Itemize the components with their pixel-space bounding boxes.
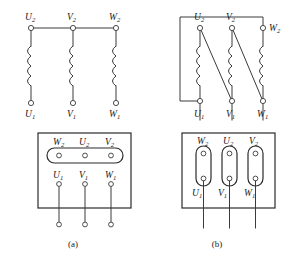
terminal-u1-a[interactable] (28, 100, 33, 105)
coil-u-b (197, 46, 201, 86)
label-u2-a: U2 (25, 12, 36, 23)
lead-end-u1-a[interactable] (57, 222, 62, 227)
block-terminal-u2-a[interactable] (83, 153, 88, 158)
block-terminal-w1-b[interactable] (253, 176, 258, 181)
block-label-u1-b: U1 (192, 188, 202, 199)
block-terminal-v2-b[interactable] (253, 151, 258, 156)
caption-a: (a) (68, 239, 78, 249)
terminal-v1-a[interactable] (70, 100, 75, 105)
block-label-u1-a: U1 (53, 170, 63, 181)
block-label-v2-b: V2 (249, 136, 259, 147)
terminal-v2-b[interactable] (229, 25, 234, 30)
terminal-w2-b[interactable] (260, 25, 265, 30)
block-terminal-w1-a[interactable] (109, 182, 114, 187)
terminal-u2-a[interactable] (28, 25, 33, 30)
terminal-w2-a[interactable] (113, 25, 118, 30)
label-w1-a: W1 (109, 109, 120, 120)
block-label-v1-a: V1 (79, 170, 88, 181)
block-label-v2-a: V2 (105, 137, 115, 148)
block-label-u2-a: U2 (79, 137, 90, 148)
label-w1-b: W1 (257, 109, 268, 120)
block-label-w2-a: W2 (53, 137, 65, 148)
block-label-u2-b: U2 (223, 136, 234, 147)
block-terminal-u2-b[interactable] (227, 151, 232, 156)
label-u1-b: U1 (194, 109, 204, 120)
coil-v-b (229, 46, 233, 86)
label-w2-b: W2 (269, 23, 281, 34)
caption-b: (b) (212, 239, 223, 249)
label-u1-a: U1 (25, 109, 35, 120)
panel-a-schematic: U2 V2 W2 U1 V1 W1 (25, 12, 121, 120)
terminal-u1-b[interactable] (197, 98, 202, 103)
terminal-v2-a[interactable] (70, 25, 75, 30)
block-label-w1-b: W1 (244, 188, 255, 199)
lead-end-w1-a[interactable] (109, 222, 114, 227)
coil-v-a (70, 46, 74, 86)
panel-b-terminal-block: W2 U2 V2 U1 V1 W1 (182, 133, 275, 228)
block-terminal-v1-b[interactable] (227, 176, 232, 181)
delta-link-v2-w1 (233, 30, 262, 99)
label-v1-a: V1 (67, 109, 76, 120)
panel-a-terminal-block: W2 U2 V2 U1 V1 W1 (38, 133, 131, 227)
label-u2-b: U2 (194, 12, 205, 23)
coil-w-b (260, 46, 264, 86)
coil-u-a (28, 46, 32, 86)
delta-link-u2-v1 (201, 30, 231, 99)
block-label-w2-b: W2 (197, 136, 209, 147)
label-v2-a: V2 (67, 12, 77, 23)
lead-end-v1-a[interactable] (83, 222, 88, 227)
block-terminal-v1-a[interactable] (83, 182, 88, 187)
block-label-v1-b: V1 (218, 188, 227, 199)
label-v2-b: V2 (226, 12, 236, 23)
coil-w-a (113, 46, 117, 86)
block-terminal-w2-b[interactable] (201, 151, 206, 156)
block-label-w1-a: W1 (105, 170, 116, 181)
terminal-w1-b[interactable] (260, 98, 265, 103)
label-w2-a: W2 (109, 12, 121, 23)
terminal-w1-a[interactable] (113, 100, 118, 105)
delta-link-w2-u1 (180, 17, 263, 101)
terminal-v1-b[interactable] (229, 98, 234, 103)
label-v1-b: V1 (226, 109, 235, 120)
block-terminal-v2-a[interactable] (109, 153, 114, 158)
block-terminal-u1-b[interactable] (201, 176, 206, 181)
block-terminal-u1-a[interactable] (57, 182, 62, 187)
connection-diagram-figure: U2 V2 W2 U1 V1 W1 W2 U2 V2 U1 V1 W1 ( (0, 0, 291, 256)
terminal-u2-b[interactable] (197, 25, 202, 30)
block-terminal-w2-a[interactable] (57, 153, 62, 158)
panel-b-schematic: U2 V2 W2 U1 V1 W1 (180, 12, 281, 120)
